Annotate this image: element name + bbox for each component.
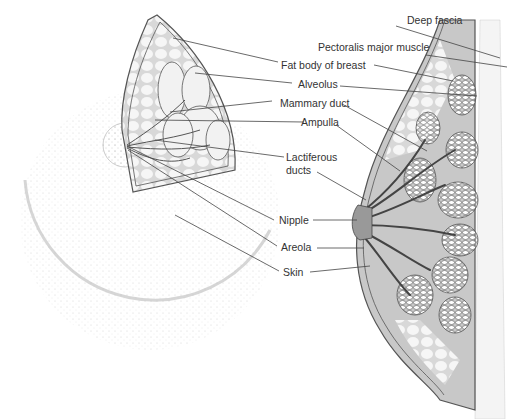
label-skin: Skin bbox=[283, 266, 303, 278]
label-mammary-duct: Mammary duct bbox=[280, 97, 349, 109]
label-areola: Areola bbox=[281, 241, 311, 253]
sagittal-section bbox=[352, 20, 505, 419]
label-fat-body: Fat body of breast bbox=[281, 59, 366, 71]
label-alveolus: Alveolus bbox=[298, 78, 338, 90]
label-ampulla: Ampulla bbox=[301, 116, 339, 128]
label-lactiferous: Lactiferous bbox=[286, 151, 337, 163]
breast-anatomy-figure bbox=[0, 0, 523, 419]
label-deep-fascia: Deep fascia bbox=[407, 14, 462, 26]
label-nipple: Nipple bbox=[279, 214, 309, 226]
frontal-breast-view bbox=[20, 15, 280, 350]
label-ducts: ducts bbox=[286, 164, 311, 176]
label-pectoralis-major-muscle: Pectoralis major muscle bbox=[318, 41, 429, 53]
